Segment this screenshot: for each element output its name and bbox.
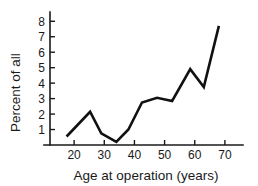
y-tick-label: 5 [38, 61, 45, 75]
y-tick-label: 6 [38, 46, 45, 60]
x-tick-label: 20 [67, 148, 81, 162]
axes-group [44, 12, 243, 145]
y-tick-label: 8 [38, 15, 45, 29]
y-tick-label: 3 [38, 92, 45, 106]
x-tick-label: 60 [188, 148, 202, 162]
x-tick-label: 70 [218, 148, 232, 162]
y-tick-label: 4 [38, 77, 45, 91]
x-tick-labels: 203040506070 [67, 148, 231, 162]
y-tick-label: 2 [38, 108, 45, 122]
chart-container: 12345678 203040506070 Percent of all Age… [0, 0, 258, 186]
y-axis-title: Percent of all [8, 53, 23, 132]
y-tick-labels: 12345678 [38, 15, 45, 137]
x-tick-label: 50 [158, 148, 172, 162]
line-chart: 12345678 203040506070 Percent of all Age… [0, 0, 258, 186]
x-axis-title: Age at operation (years) [74, 168, 219, 183]
y-tick-label: 1 [38, 123, 45, 137]
y-tick-label: 7 [38, 30, 45, 44]
x-tick-label: 40 [128, 148, 142, 162]
x-tick-label: 30 [98, 148, 112, 162]
data-series-line [67, 26, 219, 142]
